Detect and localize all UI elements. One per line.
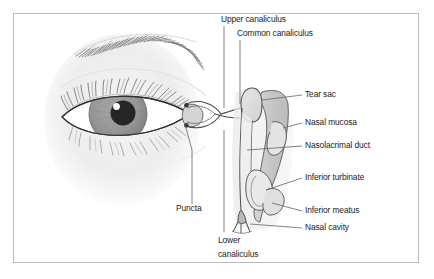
label-nasal-mucosa: Nasal mucosa <box>305 117 357 128</box>
label-inferior-turbinate: Inferior turbinate <box>305 172 364 183</box>
anatomical-figure: Upper canaliculus Common canaliculus Tea… <box>0 0 434 279</box>
label-puncta: Puncta <box>176 203 201 214</box>
upper-punctum <box>184 103 189 108</box>
label-nasal-cavity: Nasal cavity <box>305 222 349 233</box>
label-inferior-meatus: Inferior meatus <box>305 205 359 216</box>
label-lower-canaliculus-line1: Lower <box>218 235 240 246</box>
pupil-highlight <box>113 103 120 110</box>
label-common-canaliculus: Common canaliculus <box>237 28 313 39</box>
label-upper-canaliculus: Upper canaliculus <box>221 14 286 25</box>
label-lower-canaliculus-line2: canaliculus <box>218 249 258 260</box>
label-nasolacrimal-duct: Nasolacrimal duct <box>305 140 370 151</box>
lower-punctum <box>184 123 189 128</box>
label-tear-sac: Tear sac <box>305 89 336 100</box>
